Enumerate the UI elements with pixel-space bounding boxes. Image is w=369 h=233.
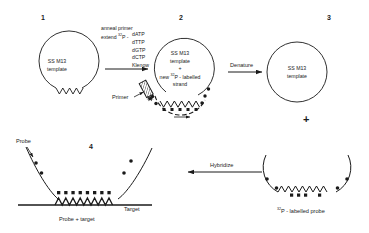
nucleotide-datp: dATP (132, 31, 149, 39)
denature-label: Denature (230, 62, 253, 68)
panel-2-new-strand: new 32P - labelled (156, 73, 204, 81)
panel-1-line-2: template (35, 66, 79, 74)
extend-label: extend 32P - (101, 33, 133, 42)
panel-2-line-2: template (156, 58, 204, 66)
panel-2-plus: + (156, 65, 204, 73)
labelled-probe-shape (263, 155, 351, 197)
primer-arrow (134, 92, 144, 97)
labelled-probe-caption: 32P - labelled probe (277, 207, 325, 214)
panel-4-number: 4 (89, 143, 93, 151)
panel-2-number: 2 (179, 14, 183, 22)
target-label: Target (124, 206, 140, 212)
anneal-primer-label: anneal primer (101, 25, 133, 33)
labelled-probe-text: P - labelled probe (281, 208, 325, 214)
panel-1-inner-text: SS M13 template (35, 58, 79, 73)
panel-2-line-5: strand (156, 81, 204, 89)
panel-3-number: 3 (327, 14, 331, 22)
plus-sign: + (303, 113, 309, 126)
panel-2-inner-text: SS M13 template + new 32P - labelled str… (156, 50, 204, 88)
panel-2-new-pre: new (160, 73, 171, 79)
enzyme-klenow: Klenow (132, 62, 149, 70)
panel-4-probe-target (18, 147, 152, 205)
extend-pre: extend (101, 34, 118, 40)
nucleotide-list: dATP dTTP dGTP dCTP Klenow (132, 31, 149, 70)
panel-3-line-1: SS M13 (275, 65, 319, 73)
panel-1-number: 1 (41, 14, 45, 22)
nucleotide-dgtp: dGTP (132, 47, 149, 55)
panel-1-line-1: SS M13 (35, 58, 79, 66)
nucleotide-dctp: dCTP (132, 54, 149, 62)
panel-2-new-post: P - labelled (175, 73, 201, 79)
nucleotide-dttp: dTTP (132, 39, 149, 47)
probe-label: Probe (16, 138, 31, 144)
m13-probe-labelling-diagram (0, 0, 369, 233)
primer-box (139, 80, 153, 98)
anneal-extend-text: anneal primer extend 32P - (101, 25, 133, 41)
probe-target-caption: Probe + target (59, 216, 95, 222)
primer-label: Primer (112, 94, 128, 100)
extend-post: P - (122, 34, 129, 40)
panel-3-inner-text: SS M13 template (275, 65, 319, 80)
panel-3-line-2: template (275, 73, 319, 81)
hybridize-label: Hybridize (210, 162, 233, 168)
panel-2-line-1: SS M13 (156, 50, 204, 58)
